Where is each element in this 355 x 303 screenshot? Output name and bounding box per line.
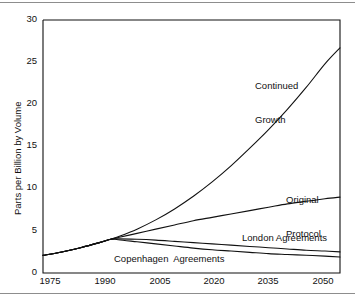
x-tick-label-2050: 2050 <box>303 276 343 287</box>
y-tick-label-30: 30 <box>15 14 37 25</box>
y-tick-label-25: 25 <box>15 56 37 67</box>
annotation-continued-growth-line1: Continued <box>255 80 298 91</box>
x-tick-label-2035: 2035 <box>248 276 288 287</box>
annotation-continued-growth-line2: Growth <box>255 114 298 125</box>
x-tick-label-1975: 1975 <box>30 276 70 287</box>
annotation-continued-growth: Continued Growth <box>255 58 298 148</box>
y-tick-label-20: 20 <box>15 98 37 109</box>
annotation-london-agreements: London Agreements <box>242 233 327 244</box>
x-tick-label-1990: 1990 <box>85 276 125 287</box>
x-tick-label-2020: 2020 <box>194 276 234 287</box>
y-tick-label-5: 5 <box>15 225 37 236</box>
chart-figure: Parts per Billion by Volume 30 25 20 15 … <box>0 0 355 303</box>
annotation-copenhagen-agreements: Copenhagen Agreements <box>114 254 224 265</box>
annotation-original-protocol-line1: Original <box>286 194 321 205</box>
y-tick-label-15: 15 <box>15 140 37 151</box>
x-tick-label-2005: 2005 <box>140 276 180 287</box>
annotation-original-protocol: Original Protocol <box>286 172 321 262</box>
y-tick-label-10: 10 <box>15 182 37 193</box>
y-axis-label: Parts per Billion by Volume <box>13 101 24 215</box>
